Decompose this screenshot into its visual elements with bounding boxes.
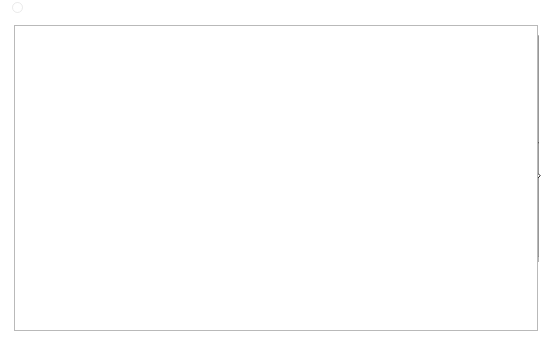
scan-artifact [12, 2, 23, 13]
figure-container: 05000100001500020000 1982198319851986198… [0, 0, 558, 348]
chart-outer-frame [14, 25, 538, 331]
